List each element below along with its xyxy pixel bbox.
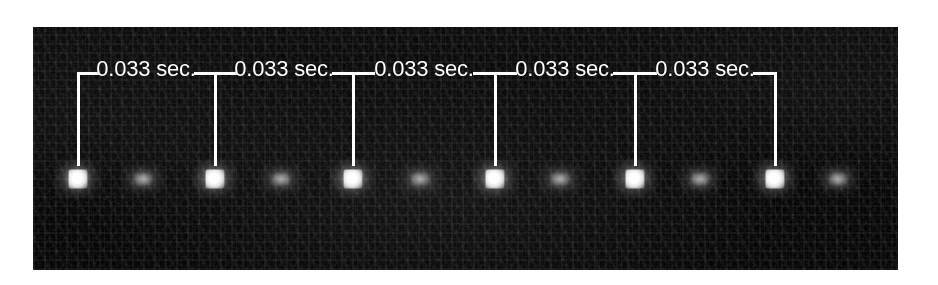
flash-core (486, 170, 505, 189)
flash-core (69, 170, 88, 189)
flash-core (272, 173, 290, 186)
strobe-photo-figure: 0.033 sec. 0.033 sec. 0.033 sec. 0.033 s… (0, 0, 938, 285)
flash-halo (678, 163, 722, 195)
flash-halo (538, 163, 582, 195)
film-grain-layer-fine (33, 27, 898, 270)
flash-halo (612, 159, 658, 199)
flash-core (766, 170, 785, 189)
flash-halo (55, 159, 101, 199)
flash-core (829, 173, 847, 186)
flash-halo (472, 159, 518, 199)
flash-core (206, 170, 225, 189)
flash-halo (121, 163, 165, 195)
flash-halo (752, 159, 798, 199)
flash-core (344, 170, 363, 189)
film-grain-layer-coarse (33, 27, 898, 270)
flash-halo (330, 159, 376, 199)
flash-halo (192, 159, 238, 199)
flash-core (411, 173, 429, 186)
plate-vignette (33, 27, 898, 270)
flash-core (626, 170, 645, 189)
flash-core (134, 173, 152, 186)
film-grain-layer-speckle (33, 27, 898, 270)
flash-core (551, 173, 569, 186)
flash-halo (259, 163, 303, 195)
flash-halo (398, 163, 442, 195)
flash-halo (816, 163, 860, 195)
photograph-plate (33, 27, 898, 270)
flash-core (691, 173, 709, 186)
